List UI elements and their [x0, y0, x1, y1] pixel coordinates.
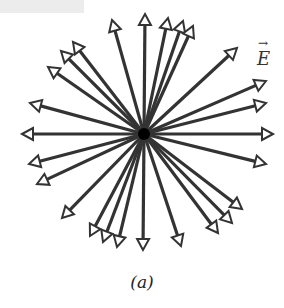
arrowhead-icon	[254, 80, 266, 91]
arrowhead-icon	[160, 18, 172, 30]
arrowhead-icon	[114, 235, 126, 247]
point-charge	[138, 128, 150, 140]
arrowhead-icon	[90, 223, 101, 236]
field-arrow	[144, 18, 172, 134]
arrowhead-icon	[30, 100, 42, 112]
arrowhead-icon	[48, 67, 60, 78]
arrowhead-icon	[29, 155, 41, 167]
arrowhead-icon	[22, 128, 33, 140]
figure-caption: (a)	[0, 272, 284, 292]
arrowhead-icon	[254, 100, 266, 112]
vector-arrow-mark: →	[258, 36, 268, 50]
arrowhead-icon	[174, 21, 185, 33]
arrowhead-icon	[101, 230, 112, 242]
field-arrow	[62, 134, 144, 218]
radial-field-diagram	[0, 0, 284, 308]
arrowhead-icon	[139, 14, 151, 25]
arrowhead-icon	[172, 234, 183, 246]
arrowhead-icon	[109, 20, 121, 32]
field-arrow	[144, 26, 194, 134]
field-arrow	[73, 42, 144, 134]
arrowhead-icon	[262, 128, 273, 140]
field-arrow	[90, 134, 144, 236]
arrowhead-icon	[254, 156, 266, 168]
field-label-e: → E	[257, 48, 270, 69]
arrowhead-icon	[137, 239, 149, 250]
arrowhead-icon	[37, 174, 50, 185]
